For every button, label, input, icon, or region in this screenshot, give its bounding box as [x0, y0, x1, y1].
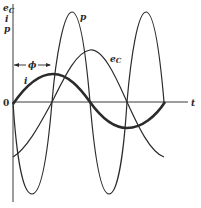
x-axis-label-t: t	[191, 98, 196, 108]
phi-label: ϕ	[28, 60, 37, 70]
curve-i	[13, 74, 165, 128]
y-label-p: p	[4, 24, 11, 34]
curve-label-p: p	[80, 12, 87, 22]
curve-p	[13, 12, 164, 194]
phi-arrow-left-icon	[14, 63, 19, 67]
waveform-diagram: eC i p 0 t ϕ p i eC	[0, 0, 201, 208]
curve-label-ec: eC	[110, 54, 122, 65]
phi-arrow-right-icon	[46, 63, 51, 67]
y-label-i: i	[5, 14, 9, 24]
curve-label-i: i	[24, 76, 28, 86]
origin-label: 0	[3, 98, 9, 108]
